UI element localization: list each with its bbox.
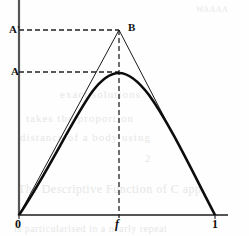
triangle-outline — [19, 30, 215, 215]
label-a-prime: A' — [9, 24, 20, 35]
label-b: B — [128, 22, 135, 33]
figure-canvas — [0, 0, 249, 236]
figure-page: WAAAA exact solutions takes the proporti… — [0, 0, 249, 236]
label-one: 1 — [212, 218, 218, 230]
label-zero: 0 — [15, 218, 21, 230]
smooth-curve — [19, 73, 215, 215]
label-f: f — [115, 218, 119, 230]
label-a: A — [11, 66, 19, 77]
